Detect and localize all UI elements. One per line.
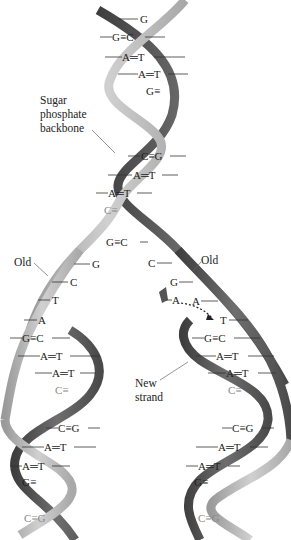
base-pair: C≡G [198,512,220,524]
label-new-strand-line2: strand [135,391,163,403]
base-pair: C≡ [104,204,118,216]
base: C [70,276,77,288]
base-pair: A═T [138,68,161,80]
base-pair: G≡C [22,332,43,344]
base: C [148,257,155,269]
label-new-strand-line1: New [135,377,157,389]
old-left-leader-line [34,263,48,276]
label-backbone-line2: phosphate [40,108,87,121]
incoming-nucleotide: A [172,294,180,306]
base-pair: A═T [44,441,67,453]
base-pair: A═T [122,51,145,63]
base-pair: C≡G [58,422,80,434]
right-old-strand [178,250,291,440]
label-old-left: Old [14,256,32,268]
base: G [170,276,178,288]
label-old-right: Old [201,254,219,266]
base-pair: G≡ [194,476,208,488]
base-pair: G≡C [204,332,225,344]
base-pair: C≡ [228,384,242,396]
base-pair: G≡C [112,31,133,43]
arrowhead-icon [206,314,214,320]
base: G [92,258,100,270]
base-pair: A═T [216,350,239,362]
new-strand-leader-line [160,362,188,380]
base-pair: G≡ [22,476,36,488]
base-pair: A═T [218,441,241,453]
replication-fork: G C T A C G A T A [5,250,291,440]
label-backbone-line1: Sugar [40,94,67,107]
base-pair: C≡ [55,384,69,396]
dna-replication-diagram: G G≡C A═T A═T G≡ C≡G A═T A═T C≡ G≡C G C … [0,0,291,540]
base-pair: C≡G [141,150,163,162]
base: T [220,314,227,326]
base-pair: A═T [108,187,131,199]
base-pair: G≡ [146,85,160,97]
base-pair: A═T [52,367,75,379]
base-pair: A═T [226,367,249,379]
backbone-leader-line [92,130,115,153]
incoming-nucleotide-icon [159,287,168,303]
base-pair: A═T [198,460,221,472]
base-pair: A═T [133,169,156,181]
right-old-strand-lower [211,440,291,540]
label-backbone-line3: backbone [40,122,84,134]
base-pair: G [140,13,148,25]
base-pair: C≡G [232,422,254,434]
base-pair: A═T [40,350,63,362]
base: T [52,294,59,306]
base-pair: C≡G [24,512,46,524]
base-pair: A═T [22,460,45,472]
base-pair: G≡C [106,236,127,248]
base: A [38,314,46,326]
right-daughter-helix: G≡C A═T A═T C≡ C≡G A═T A═T G≡ C≡G [183,320,291,540]
